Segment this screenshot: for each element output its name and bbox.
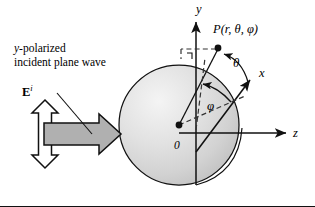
figure-container: y-polarized incident plane wave y x z 0 … [0,0,315,207]
propagation-block-arrow [44,114,121,154]
caption-text: y-polarized incident plane wave [14,42,106,69]
e-field-label: Ei [22,83,33,100]
diagram-canvas [0,0,315,206]
right-angle-marker [187,53,192,59]
y-axis-label: y [196,2,202,17]
point-p-dot [215,45,222,52]
point-p-label: P(r, θ, φ) [213,22,258,37]
theta-label: θ [233,55,239,70]
e-field-superscript: i [30,83,32,93]
z-axis-label: z [293,126,298,141]
origin-dot [176,122,183,129]
caption-line2: incident plane wave [14,56,106,68]
phi-label: φ [207,98,214,113]
caption-line1-rest: -polarized [19,42,66,54]
x-axis-label: x [259,66,265,81]
origin-label: 0 [174,139,180,153]
